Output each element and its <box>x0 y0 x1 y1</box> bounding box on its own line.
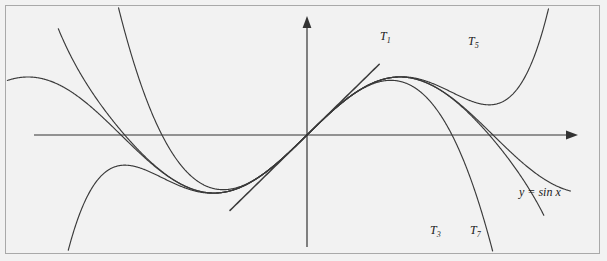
label-t5-subscript: 5 <box>475 41 479 50</box>
curve-t1 <box>230 64 379 210</box>
function-label-text: y = sin x <box>519 185 561 199</box>
label-t7-text: T <box>470 223 477 237</box>
label-t1-subscript: 1 <box>387 36 391 45</box>
function-label: y = sin x <box>519 186 561 198</box>
plot-canvas <box>0 0 607 261</box>
label-t1-text: T <box>380 29 387 43</box>
x-axis-arrowhead <box>566 131 578 140</box>
label-t7-subscript: 7 <box>477 230 481 239</box>
label-t5: T5 <box>468 35 479 50</box>
label-t3: T3 <box>430 224 441 239</box>
curves-group <box>7 8 570 251</box>
y-axis-arrowhead <box>303 16 312 28</box>
label-t5-text: T <box>468 34 475 48</box>
taylor-polynomial-figure: T1 T5 T3 T7 y = sin x <box>0 0 607 261</box>
label-t7: T7 <box>470 224 481 239</box>
curve-t3 <box>119 8 493 251</box>
label-t1: T1 <box>380 30 391 45</box>
label-t3-subscript: 3 <box>437 230 441 239</box>
curve-t7 <box>58 29 544 215</box>
label-t3-text: T <box>430 223 437 237</box>
axes-group <box>34 16 578 247</box>
